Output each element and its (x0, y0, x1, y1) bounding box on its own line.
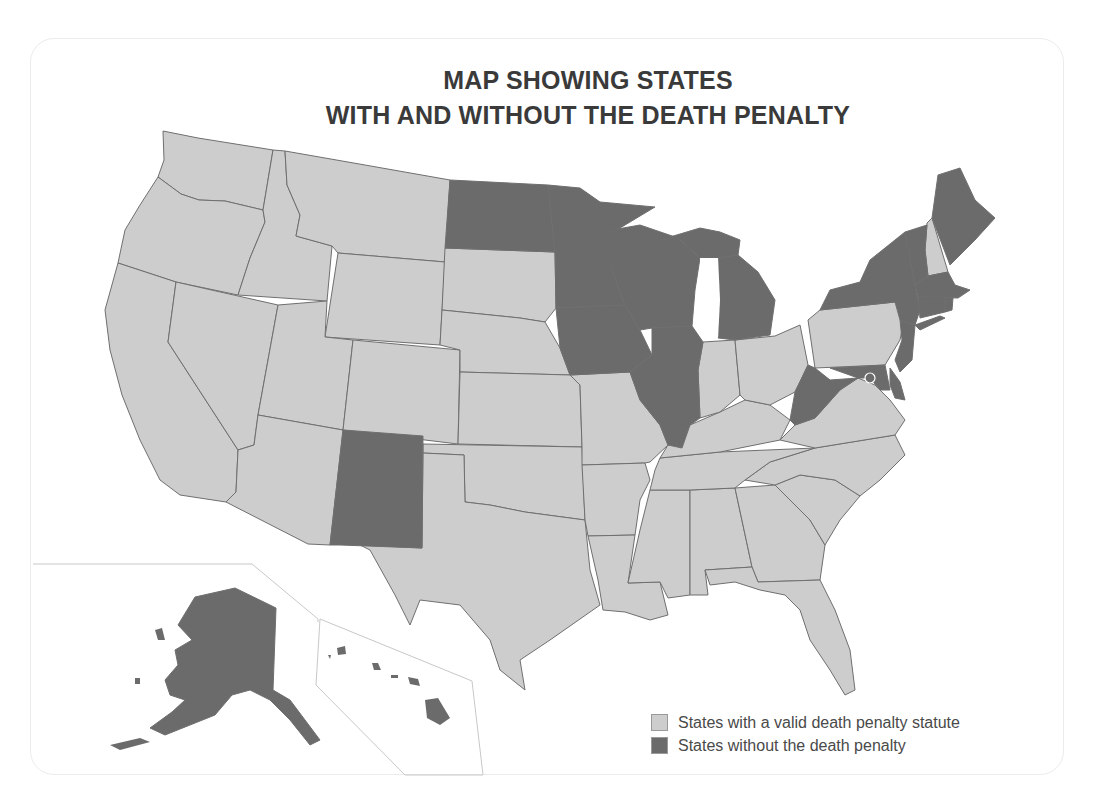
state-south-dakota[interactable] (442, 248, 556, 322)
state-arkansas[interactable] (582, 463, 650, 536)
legend-item-without-death-penalty: States without the death penalty (651, 734, 960, 757)
legend-swatch-light (651, 714, 668, 731)
state-connecticut[interactable] (918, 297, 945, 318)
state-nebraska[interactable] (440, 310, 570, 375)
state-michigan[interactable] (718, 255, 775, 340)
legend-label: States with a valid death penalty statut… (678, 714, 960, 732)
district-of-columbia[interactable] (865, 373, 875, 383)
state-colorado[interactable] (343, 340, 460, 444)
state-wyoming[interactable] (325, 253, 445, 345)
state-north-dakota[interactable] (445, 180, 555, 252)
state-rhode-island[interactable] (945, 297, 953, 312)
state-hawaii[interactable] (328, 646, 450, 725)
state-delaware[interactable] (890, 368, 905, 400)
legend: States with a valid death penalty statut… (651, 711, 960, 757)
state-florida[interactable] (705, 567, 855, 695)
legend-label: States without the death penalty (678, 737, 906, 755)
legend-swatch-dark (651, 737, 668, 754)
state-new-mexico[interactable] (330, 430, 423, 548)
legend-item-with-death-penalty: States with a valid death penalty statut… (651, 711, 960, 734)
state-alaska[interactable] (110, 588, 320, 750)
hawaii-inset-border (316, 619, 483, 775)
state-kansas[interactable] (458, 372, 582, 447)
state-new-york-long-island[interactable] (915, 316, 945, 330)
state-pennsylvania[interactable] (808, 302, 905, 368)
us-map (0, 0, 1096, 807)
lake-michigan (700, 258, 720, 338)
